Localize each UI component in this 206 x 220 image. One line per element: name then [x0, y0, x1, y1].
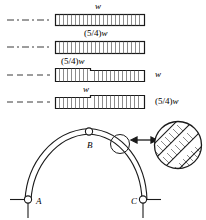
- strip-1-label: w: [95, 2, 101, 11]
- strip-3-outline: [56, 69, 145, 82]
- hinge-c: [139, 196, 146, 203]
- strip-2: [56, 42, 145, 54]
- strip-3-label-right: w: [155, 70, 161, 79]
- support-a: [10, 196, 32, 218]
- strip-4-label-left: w: [83, 85, 89, 94]
- hinge-label-c: C: [131, 197, 137, 206]
- double-arrow-icon: [131, 137, 157, 143]
- strip-4-outline: [56, 96, 145, 109]
- hinge-a: [24, 196, 31, 203]
- strip-3: [56, 69, 145, 82]
- strip-1: [56, 15, 145, 26]
- hinge-label-b: B: [87, 141, 93, 150]
- strip-1-laminations: [60, 15, 140, 26]
- centerline-group: [7, 20, 50, 102]
- strip-4: [56, 96, 145, 109]
- detail-callout-circle: [111, 135, 130, 154]
- strip-2-label: (5/4)w: [84, 29, 108, 38]
- strip-2-laminations: [60, 42, 140, 54]
- hinge-label-a: A: [36, 197, 42, 206]
- hinge-b: [85, 128, 92, 135]
- support-c: [139, 196, 161, 218]
- magnified-detail: [148, 112, 206, 180]
- strip-4-label-right: (5/4)w: [155, 97, 179, 106]
- strip-3-label-left: (5/4)w: [61, 57, 85, 66]
